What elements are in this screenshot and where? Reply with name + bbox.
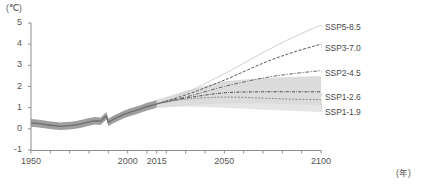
- legend-label-ssp3-7.0: SSP3-7.0: [325, 43, 361, 53]
- projection-uncertainty-bands: [157, 76, 321, 112]
- legend-label-ssp5-8.5: SSP5-8.5: [325, 22, 361, 32]
- legend-leader-lines: [321, 25, 322, 112]
- y-tick-label: 1: [6, 102, 22, 112]
- y-tick-label: -1: [6, 144, 22, 154]
- temperature-projection-chart: (℃) (年) -1012345 19502000201520502100 SS…: [0, 0, 435, 187]
- x-tick-label-2050: 2050: [204, 156, 244, 166]
- legend-leader-ssp2-4.5: [321, 71, 322, 73]
- y-tick-label: 2: [6, 81, 22, 91]
- y-tick-label: 0: [6, 123, 22, 133]
- x-tick-label-1950: 1950: [11, 156, 51, 166]
- x-tick-label-2100: 2100: [301, 156, 341, 166]
- y-tick-label: 5: [6, 17, 22, 27]
- legend-leader-ssp1-2.6: [321, 92, 322, 97]
- legend-leader-ssp5-8.5: [321, 25, 322, 27]
- legend-leader-ssp3-7.0: [321, 44, 322, 48]
- legend-label-ssp1-2.6: SSP1-2.6: [325, 92, 361, 102]
- legend-label-ssp2-4.5: SSP2-4.5: [325, 68, 361, 78]
- legend-leader-ssp1-1.9: [321, 100, 322, 112]
- y-tick-label: 3: [6, 59, 22, 69]
- projection-lines: [157, 25, 321, 104]
- x-tick-label-2015: 2015: [137, 156, 177, 166]
- y-tick-label: 4: [6, 38, 22, 48]
- legend-label-ssp1-1.9: SSP1-1.9: [325, 107, 361, 117]
